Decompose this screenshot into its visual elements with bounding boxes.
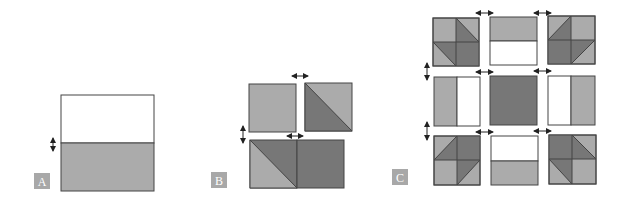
panel-c-edge-bottom — [491, 136, 538, 185]
panel-b-square-dark — [297, 140, 344, 188]
label-b-badge: B — [211, 172, 227, 188]
quilt-assembly-diagram: A B — [0, 0, 619, 199]
label-b: B — [215, 174, 223, 188]
panel-a-bottom-light — [61, 143, 154, 191]
label-a: A — [38, 175, 47, 189]
panel-a-top-white — [61, 95, 154, 143]
panel-c-corner-bottom-left — [434, 136, 480, 185]
panel-b-square-light — [249, 84, 296, 132]
panel-c-corner-top-right — [548, 16, 595, 64]
label-a-badge: A — [34, 173, 50, 189]
panel-a: A — [34, 95, 154, 191]
panel-b-hst-top-right — [305, 83, 352, 131]
panel-c-center-dark — [490, 76, 537, 125]
panel-c-corner-bottom-right — [549, 135, 596, 184]
panel-c-edge-left — [434, 77, 480, 126]
panel-c-corner-top-left — [433, 18, 479, 66]
label-c-badge: C — [392, 169, 408, 185]
panel-c: C — [392, 13, 596, 185]
panel-b: B — [211, 76, 352, 188]
panel-c-edge-right — [548, 76, 595, 125]
panel-c-edge-top — [490, 17, 537, 65]
label-c: C — [396, 171, 404, 185]
panel-b-hst-bottom-left — [250, 140, 297, 188]
